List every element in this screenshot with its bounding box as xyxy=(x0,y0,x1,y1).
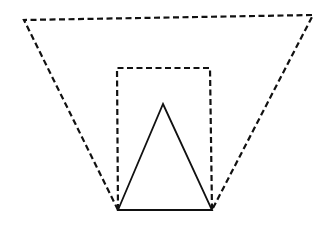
diagram-background xyxy=(0,0,331,233)
diagram-canvas xyxy=(0,0,331,233)
